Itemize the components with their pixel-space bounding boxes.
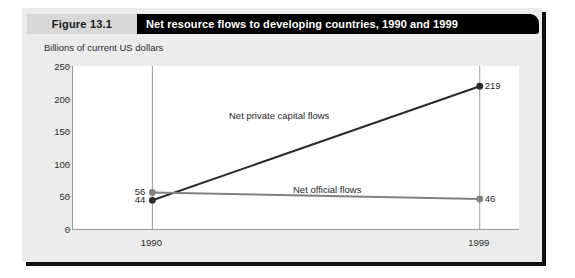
y-tick-mark [66,99,71,100]
y-tick-mark [66,66,71,67]
y-tick-label: 200 [26,93,70,104]
y-tick-mark [66,164,71,165]
figure-title-banner: Net resource flows to developing countri… [137,14,539,34]
y-tick-label: 100 [26,158,70,169]
y-tick-mark [66,196,71,197]
series-annotation-label: Net private capital flows [229,110,329,121]
figure-number-label: Figure 13.1 [52,18,112,30]
y-tick-label: 250 [26,61,70,72]
figure-title-text: Net resource flows to developing countri… [137,18,458,30]
chart-area: Billions of current US dollars 050100150… [22,34,542,262]
figure-card: Figure 13.1 Net resource flows to develo… [22,8,542,262]
data-point-value-label: 219 [485,80,501,91]
x-tick-label: 1999 [468,237,489,248]
plot-frame [72,66,519,230]
data-point-value-label: 46 [485,193,496,204]
data-point-marker [476,196,483,203]
y-axis-unit-label: Billions of current US dollars [44,42,163,53]
y-tick-label: 50 [26,191,70,202]
x-axis-tick-group: 19901999 [72,234,518,250]
data-point-marker [149,197,156,204]
y-tick-mark [66,229,71,230]
data-point-marker [476,83,483,90]
y-tick-label: 150 [26,126,70,137]
y-tick-mark [66,131,71,132]
gridline-group [152,66,479,229]
data-point-value-label: 44 [129,194,145,205]
y-tick-label: 0 [26,224,70,235]
series-annotation-label: Net official flows [293,184,361,195]
figure-header: Figure 13.1 Net resource flows to develo… [27,14,539,34]
y-axis-tick-group: 050100150200250 [22,66,70,229]
x-tick-label: 1990 [141,237,162,248]
data-point-marker [149,189,156,196]
figure-number-box: Figure 13.1 [27,14,137,34]
